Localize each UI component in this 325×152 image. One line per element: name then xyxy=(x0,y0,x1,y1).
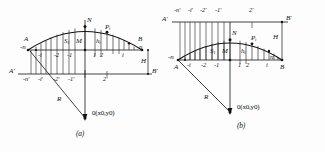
label-b-radius: R xyxy=(204,94,208,101)
label-a-upper-tick-3: 1 xyxy=(93,52,96,58)
node-dots-a xyxy=(27,25,149,119)
label-b-point: Pi xyxy=(251,35,256,43)
label-b-upper-tick-3: -1' xyxy=(215,7,221,13)
label-b-mid: M xyxy=(222,48,228,55)
label-a-right-base: B' xyxy=(152,68,157,75)
label-a-right-end: n xyxy=(139,44,142,51)
caption-b: (b) xyxy=(237,122,245,130)
label-b-lower-tick-1: -2 xyxy=(201,62,206,68)
label-a-height: hi xyxy=(96,38,100,46)
label-a-lower-tick-1: -i' xyxy=(38,76,43,82)
caption-a: (a) xyxy=(76,130,84,138)
label-a-lower-tick-3: -1' xyxy=(68,76,74,82)
label-a-lower-tick-4: 2' xyxy=(103,76,107,82)
label-a-radius: R xyxy=(57,96,61,103)
label-b-point-sub: i xyxy=(255,37,256,42)
radius-line-b xyxy=(179,61,230,112)
label-a-right-top: B xyxy=(138,36,142,43)
label-b-rise: H xyxy=(273,34,278,41)
drawing-canvas: A -n B n N Pi S1 M hi -i -2 -1 1 2 i A' … xyxy=(0,0,325,152)
label-a-left-end: -n xyxy=(20,44,25,51)
label-a-mid: M xyxy=(76,38,82,45)
label-b-lower-tick-2: -1 xyxy=(214,62,219,68)
label-b-right-top: B' xyxy=(286,15,291,22)
label-a-upper-tick-5: i xyxy=(122,52,124,58)
label-a-origin: 0(x0,y0) xyxy=(92,110,114,117)
label-b-left-end: -n xyxy=(168,54,173,61)
label-b-lower-tick-3: 1 xyxy=(238,62,241,68)
label-a-rise: H xyxy=(141,58,146,65)
label-b-left-base: A xyxy=(174,64,178,71)
label-b-left-top: A' xyxy=(162,16,167,23)
label-a-upper-tick-0: -i xyxy=(38,52,42,58)
label-b-right-end: n xyxy=(270,54,273,61)
label-a-point-sub: i xyxy=(109,26,110,31)
label-b-apex: N xyxy=(232,30,236,37)
label-b-lower-tick-5: i xyxy=(266,62,268,68)
label-a-left-base: A' xyxy=(9,68,14,75)
label-b-area: S1 xyxy=(210,48,216,56)
label-b-upper-tick-0: -n' xyxy=(174,7,180,13)
chord-ticks-a xyxy=(95,50,119,56)
label-b-height: hi xyxy=(241,48,245,56)
label-b-right-base: B xyxy=(280,64,284,71)
label-b-upper-tick-2: -2' xyxy=(200,7,206,13)
label-a-lower-tick-0: -n' xyxy=(23,76,29,82)
label-b-upper-tick-4: 2' xyxy=(249,7,253,13)
label-a-apex: N xyxy=(87,17,91,24)
label-b-upper-tick-1: -i' xyxy=(188,7,193,13)
label-b-origin: 0(x0,y0) xyxy=(237,104,259,111)
label-a-upper-tick-4: 2 xyxy=(100,52,103,58)
label-b-area-sub: 1 xyxy=(213,50,215,55)
figure-b: A' B' -n' -i' -2' -1' 2' N Pi S1 M hi H … xyxy=(160,0,325,152)
label-a-height-sub: i xyxy=(99,40,100,45)
label-b-height-sub: i xyxy=(244,50,245,55)
label-a-left-top: A xyxy=(24,36,28,43)
label-a-lower-tick-2: -2' xyxy=(53,76,59,82)
label-a-upper-tick-2: -1 xyxy=(67,52,72,58)
label-b-lower-tick-4: 2 xyxy=(246,62,249,68)
label-a-area-sub: 1 xyxy=(67,40,69,45)
figure-a: A -n B n N Pi S1 M hi -i -2 -1 1 2 i A' … xyxy=(0,0,163,152)
radius-line-a xyxy=(30,51,85,118)
label-a-area: S1 xyxy=(64,38,70,46)
label-b-lower-tick-0: -i xyxy=(187,62,191,68)
label-a-point: Pi xyxy=(105,24,110,32)
label-a-upper-tick-1: -2 xyxy=(54,52,59,58)
